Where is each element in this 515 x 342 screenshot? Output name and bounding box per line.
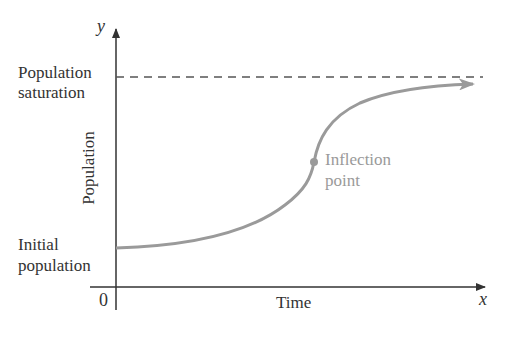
x-axis-letter: x xyxy=(479,289,487,309)
saturation-label-line2: saturation xyxy=(18,83,85,103)
y-axis-letter: y xyxy=(97,16,105,36)
inflection-label-line1: Inflection xyxy=(325,150,391,170)
inflection-label-line2: point xyxy=(325,171,360,191)
initial-label-line1: Initial xyxy=(18,235,59,255)
saturation-label-line1: Population xyxy=(18,63,92,83)
origin-label: 0 xyxy=(99,290,108,310)
inflection-point-marker xyxy=(310,158,318,166)
y-axis-title: Population xyxy=(79,131,99,205)
x-axis-title: Time xyxy=(276,293,311,313)
logistic-curve xyxy=(116,84,473,248)
diagram-canvas xyxy=(0,0,515,342)
initial-label-line2: population xyxy=(18,256,91,276)
